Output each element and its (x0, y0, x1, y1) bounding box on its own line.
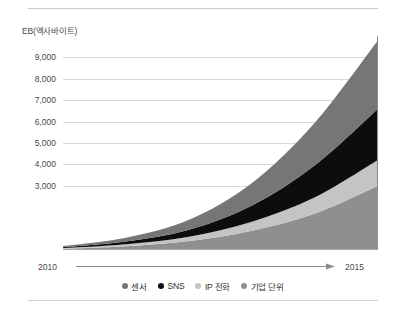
plot-area (63, 36, 378, 250)
legend-swatch-icon (195, 283, 201, 289)
right-axis-line (377, 36, 378, 250)
chart-legend: 센서SNSIP 전화기업 단위 (0, 280, 406, 292)
stacked-area-series (63, 36, 378, 250)
legend-item[interactable]: 센서 (122, 280, 147, 292)
legend-swatch-icon (122, 283, 128, 289)
x-axis-label-end: 2015 (345, 262, 364, 272)
y-axis-tick-label: 4,000 (0, 159, 56, 169)
chart-figure: EB(엑사바이트) 9,0008,0007,0006,0005,0004,000… (0, 0, 406, 314)
y-axis-tick-label: 6,000 (0, 117, 56, 127)
y-axis-tick-label: 7,000 (0, 95, 56, 105)
x-axis-baseline (63, 249, 378, 250)
y-axis-unit-label: EB(엑사바이트) (22, 24, 77, 36)
legend-label: 센서 (131, 280, 147, 292)
legend-label: SNS (168, 281, 185, 291)
y-axis-tick-label: 3,000 (0, 181, 56, 191)
x-axis-label-start: 2010 (38, 262, 57, 272)
legend-item[interactable]: IP 전화 (195, 280, 230, 292)
bottom-divider (28, 300, 378, 301)
legend-swatch-icon (241, 283, 247, 289)
legend-swatch-icon (158, 283, 164, 289)
y-axis-tick-label: 9,000 (0, 52, 56, 62)
legend-item[interactable]: 기업 단위 (241, 280, 284, 292)
top-divider (28, 8, 378, 9)
y-axis-tick-label: 5,000 (0, 138, 56, 148)
legend-label: IP 전화 (205, 280, 230, 292)
legend-label: 기업 단위 (251, 280, 284, 292)
legend-item[interactable]: SNS (158, 281, 184, 291)
y-axis-tick-label: 8,000 (0, 74, 56, 84)
x-axis-arrow-icon (76, 262, 338, 271)
